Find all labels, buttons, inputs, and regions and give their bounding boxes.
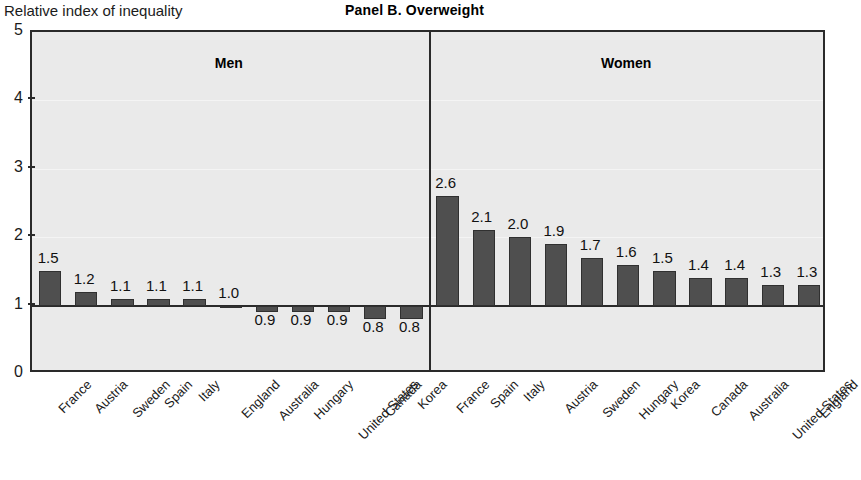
category-label: Sweden [599,377,643,421]
y-tick-mark-4 [28,97,35,99]
category-label: France [55,377,94,416]
bar[interactable] [75,292,97,306]
category-label: Spain [487,377,521,411]
category-label: Austria [91,377,130,416]
bar[interactable] [220,306,242,308]
category-label: Italy [520,377,547,404]
gridline-2 [32,237,823,238]
y-tick-label-3: 3 [14,158,23,176]
category-label: Italy [195,377,222,404]
chart-title: Panel B. Overweight [0,2,829,18]
bar[interactable] [762,285,784,306]
y-axis-tick-labels: 012345 [0,0,30,402]
bar[interactable] [147,299,169,306]
category-label: England [238,377,282,421]
y-tick-mark-3 [28,166,35,168]
bar[interactable] [473,230,495,305]
category-label: France [453,377,492,416]
group-heading-women: Women [428,55,826,71]
y-tick-label-1: 1 [14,295,23,313]
bar-value-label: 0.8 [383,318,435,335]
bar[interactable] [653,271,675,305]
bar-value-label: 1.3 [781,263,833,280]
gridline-3 [32,169,823,170]
bar[interactable] [689,278,711,305]
y-tick-label-4: 4 [14,89,23,107]
bar-value-label: 1.0 [203,284,255,301]
bar[interactable] [400,306,422,320]
y-tick-label-0: 0 [14,363,23,381]
group-heading-men: Men [30,55,428,71]
bar-value-label: 2.6 [420,174,472,191]
bar[interactable] [364,306,386,320]
bar-value-label: 1.5 [22,249,74,266]
bar[interactable] [725,278,747,305]
bar[interactable] [798,285,820,306]
y-tick-mark-1 [28,303,35,305]
bar[interactable] [509,237,531,305]
bar[interactable] [581,258,603,306]
y-tick-label-2: 2 [14,226,23,244]
y-tick-mark-2 [28,234,35,236]
category-label: Australia [745,377,791,423]
gridline-4 [32,100,823,101]
bar[interactable] [545,244,567,306]
y-tick-label-5: 5 [14,21,23,39]
category-label: Austria [561,377,600,416]
category-label: Canada [707,377,750,420]
bar[interactable] [617,265,639,306]
bar[interactable] [111,299,133,306]
